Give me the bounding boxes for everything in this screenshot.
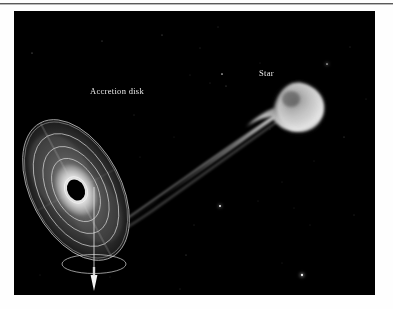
star-label: Star [259,68,274,78]
accretion-disk-label: Accretion disk [90,86,144,96]
astronomy-figure-plate: Accretion disk Star [14,11,375,295]
page-canvas: Accretion disk Star [0,0,393,309]
accretion-disk [14,102,151,278]
figure-illustration [14,11,375,295]
page-top-rule-highlight [0,4,393,5]
